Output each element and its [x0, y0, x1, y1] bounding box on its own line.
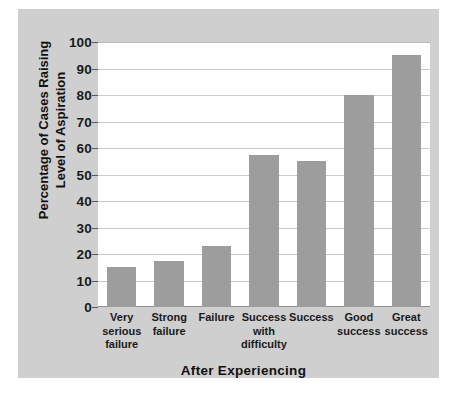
y-axis-tick-label: 80	[52, 88, 92, 103]
bar[interactable]	[392, 55, 421, 307]
y-axis-tick-label: 20	[52, 247, 92, 262]
y-axis-tick-mark	[92, 42, 98, 43]
y-axis-tick-label: 60	[52, 141, 92, 156]
y-axis-tick-label: 30	[52, 220, 92, 235]
y-axis-tick-label: 70	[52, 114, 92, 129]
y-axis-tick-mark	[92, 281, 98, 282]
y-axis-tick-label: 0	[52, 300, 92, 315]
gridline	[98, 122, 430, 123]
bar[interactable]	[249, 155, 278, 307]
bar[interactable]	[344, 95, 373, 307]
y-axis-tick-labels: 0102030405060708090100	[46, 42, 92, 307]
y-axis-tick-mark	[92, 201, 98, 202]
y-axis-tick-mark	[92, 148, 98, 149]
figure: Percentage of Cases Raising Level of Asp…	[0, 0, 451, 400]
bar[interactable]	[154, 261, 183, 307]
x-axis-title: After Experiencing	[18, 363, 451, 378]
gridline	[98, 42, 430, 43]
x-axis-tick-label: Great success	[377, 311, 436, 338]
gridline	[98, 148, 430, 149]
chart-panel: Percentage of Cases Raising Level of Asp…	[18, 9, 439, 378]
y-axis-tick-label: 10	[52, 273, 92, 288]
bar[interactable]	[297, 161, 326, 307]
gridline	[98, 95, 430, 96]
y-axis-tick-mark	[92, 175, 98, 176]
y-axis-tick-mark	[92, 95, 98, 96]
plot-area	[98, 42, 430, 307]
y-axis-tick-mark	[92, 228, 98, 229]
y-axis-tick-label: 40	[52, 194, 92, 209]
y-axis-tick-mark	[92, 307, 98, 308]
bar[interactable]	[107, 267, 136, 307]
gridline	[98, 69, 430, 70]
y-axis-tick-mark	[92, 122, 98, 123]
y-axis-tick-mark	[92, 254, 98, 255]
y-axis-tick-label: 90	[52, 61, 92, 76]
y-axis-tick-label: 50	[52, 167, 92, 182]
x-axis-tick-labels: Very serious failureStrong failureFailur…	[98, 311, 430, 369]
bar[interactable]	[202, 246, 231, 307]
y-axis-tick-label: 100	[52, 35, 92, 50]
y-axis-tick-mark	[92, 69, 98, 70]
